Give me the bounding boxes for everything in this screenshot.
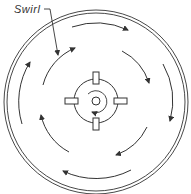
hub-tab-bottom [93,118,99,130]
center-small-circle [92,97,100,105]
hub-tab-right [114,98,127,104]
swirl-leader-line [44,9,58,55]
swirl-diagram [0,0,191,194]
hub-tab-top [93,72,99,84]
hub-tab-left [65,98,78,104]
central-hub [65,72,127,130]
